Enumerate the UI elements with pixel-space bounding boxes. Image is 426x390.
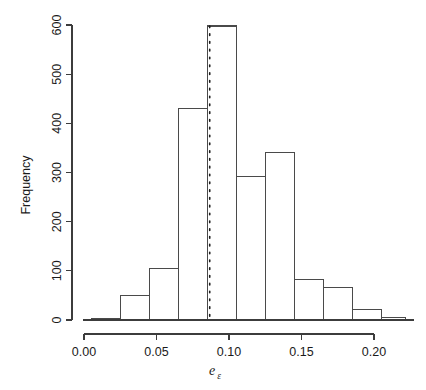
- chart-canvas: 600 500 400 300 200 100 0 Frequency 0.00…: [0, 0, 426, 390]
- y-tick-label-0: 0: [50, 316, 64, 323]
- histogram-figure: 600 500 400 300 200 100 0 Frequency 0.00…: [0, 0, 426, 390]
- x-tick-label-0.15: 0.15: [289, 345, 313, 359]
- y-tick-label-200: 200: [50, 211, 64, 232]
- x-tick-label-0.05: 0.05: [144, 345, 168, 359]
- x-tick-label-0.00: 0.00: [72, 345, 96, 359]
- y-tick-label-400: 400: [50, 113, 64, 134]
- y-tick-label-100: 100: [50, 260, 64, 281]
- x-axis-title-subscript: ε: [217, 371, 221, 381]
- x-tick-label-0.10: 0.10: [217, 345, 241, 359]
- y-tick-label-600: 600: [50, 15, 64, 36]
- y-axis-title: Frequency: [19, 155, 33, 215]
- y-tick-label-300: 300: [50, 162, 64, 183]
- x-tick-label-0.20: 0.20: [362, 345, 386, 359]
- x-axis-title-base: e: [209, 363, 215, 378]
- y-tick-label-500: 500: [50, 64, 64, 85]
- figure-background: [0, 0, 426, 390]
